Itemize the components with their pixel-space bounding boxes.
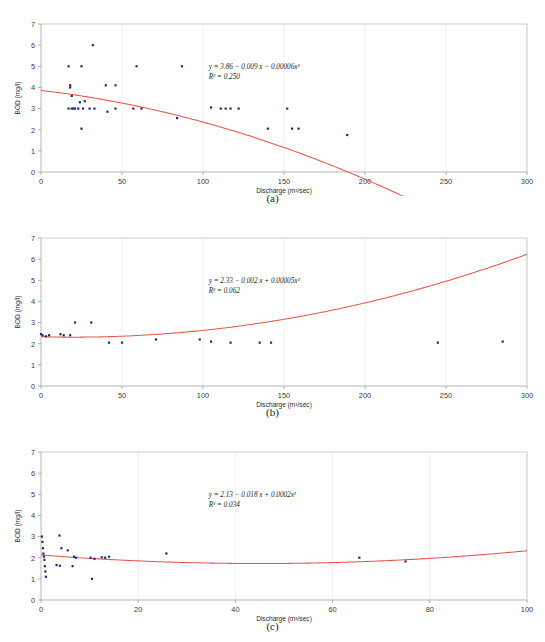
data-point <box>297 128 299 130</box>
x-axis-title: Discharge (m³/sec) <box>256 187 312 195</box>
data-point <box>404 560 406 562</box>
data-point <box>79 101 81 103</box>
data-point <box>74 107 76 109</box>
r-squared-label: R² = 0.034 <box>208 501 241 509</box>
data-point <box>114 84 116 86</box>
x-tick-label: 20 <box>134 605 142 614</box>
data-point <box>77 107 79 109</box>
data-point <box>45 576 47 578</box>
data-point <box>58 534 60 536</box>
y-tick-label: 0 <box>31 168 35 177</box>
data-point <box>291 128 293 130</box>
data-point <box>165 552 167 554</box>
y-tick-label: 6 <box>31 469 35 478</box>
scatter-plot-b: 01234567050100150200250300Discharge (m³/… <box>0 214 545 410</box>
x-axis-title: Discharge (m³/sec) <box>256 615 312 623</box>
data-point <box>101 556 103 558</box>
data-point <box>135 65 137 67</box>
x-tick-label: 250 <box>440 391 452 400</box>
data-point <box>89 107 91 109</box>
y-tick-label: 1 <box>31 575 35 584</box>
data-point <box>358 557 360 559</box>
data-point <box>74 321 76 323</box>
data-point <box>43 556 45 558</box>
panel-caption-a: (a) <box>0 192 545 204</box>
data-point <box>220 107 222 109</box>
data-point <box>84 100 86 102</box>
panel-a: 01234567050100150200250300Discharge (m³/… <box>0 0 545 214</box>
regression-equation-label: y = 3.86 − 0.009 x − 0.00006x² <box>208 63 301 71</box>
x-tick-label: 0 <box>39 391 43 400</box>
x-tick-label: 200 <box>359 391 371 400</box>
data-point <box>259 342 261 344</box>
data-point <box>91 578 93 580</box>
x-tick-label: 80 <box>426 605 434 614</box>
data-point <box>89 557 91 559</box>
data-point <box>229 107 231 109</box>
data-point <box>108 342 110 344</box>
scatter-plot-a: 01234567050100150200250300Discharge (m³/… <box>0 0 545 196</box>
y-tick-label: 3 <box>31 104 35 113</box>
y-tick-label: 7 <box>31 234 35 243</box>
data-point <box>80 65 82 67</box>
data-point <box>63 334 65 336</box>
x-tick-label: 50 <box>118 391 126 400</box>
data-point <box>67 107 69 109</box>
x-tick-label: 150 <box>278 391 290 400</box>
panel-caption-c: (c) <box>0 620 545 632</box>
y-tick-label: 7 <box>31 20 35 29</box>
data-point <box>210 341 212 343</box>
data-point <box>69 86 71 88</box>
x-tick-label: 60 <box>328 605 336 614</box>
data-point <box>60 547 62 549</box>
data-point <box>73 556 75 558</box>
data-point <box>140 107 142 109</box>
y-tick-label: 5 <box>31 276 35 285</box>
y-tick-label: 3 <box>31 532 35 541</box>
x-tick-label: 40 <box>231 605 239 614</box>
y-axis-title: BOD (mg/l) <box>14 82 22 115</box>
y-tick-label: 6 <box>31 41 35 50</box>
data-point <box>181 65 183 67</box>
regression-equation-label: y = 2.13 − 0.018 x + 0.0002x² <box>208 491 297 499</box>
regression-line <box>41 551 527 564</box>
data-point <box>93 107 95 109</box>
panel-caption-b: (b) <box>0 406 545 418</box>
data-point <box>75 557 77 559</box>
data-point <box>44 565 46 567</box>
x-tick-label: 0 <box>39 177 43 186</box>
data-point <box>270 342 272 344</box>
y-tick-label: 0 <box>31 382 35 391</box>
data-point <box>43 559 45 561</box>
data-point <box>225 107 227 109</box>
x-tick-label: 250 <box>440 177 452 186</box>
data-point <box>71 95 73 97</box>
data-point <box>346 134 348 136</box>
x-axis-title: Discharge (m³/sec) <box>256 401 312 409</box>
x-tick-label: 300 <box>521 391 533 400</box>
x-tick-label: 100 <box>197 177 209 186</box>
chart-svg-b: 01234567050100150200250300Discharge (m³/… <box>0 214 545 410</box>
y-axis-title: BOD (mg/l) <box>14 510 22 543</box>
y-tick-label: 5 <box>31 62 35 71</box>
regression-equation-label: y = 2.33 − 0.002 x + 0.00005x² <box>208 277 301 285</box>
y-tick-label: 2 <box>31 554 35 563</box>
data-point <box>267 128 269 130</box>
y-tick-label: 4 <box>31 297 35 306</box>
x-tick-label: 0 <box>39 605 43 614</box>
y-axis-title: BOD (mg/l) <box>14 296 22 329</box>
data-point <box>45 335 47 337</box>
data-point <box>44 570 46 572</box>
data-point <box>155 338 157 340</box>
x-tick-label: 300 <box>521 177 533 186</box>
data-point <box>108 556 110 558</box>
x-tick-label: 100 <box>197 391 209 400</box>
r-squared-label: R² = 0.062 <box>208 287 241 295</box>
data-point <box>67 65 69 67</box>
r-squared-label: R² = 0.250 <box>208 73 241 81</box>
data-point <box>90 321 92 323</box>
x-tick-label: 100 <box>521 605 533 614</box>
data-point <box>121 342 123 344</box>
x-tick-label: 150 <box>278 177 290 186</box>
data-point <box>93 558 95 560</box>
